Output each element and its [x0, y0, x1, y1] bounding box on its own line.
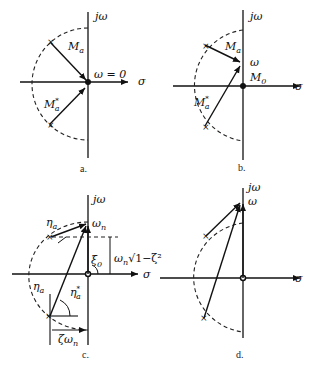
panel-d: × × jω σ ω d.: [160, 181, 303, 360]
panel-b: × × jω σ Ma M*a ω M0 b.: [173, 10, 303, 173]
jw-label: jω: [92, 10, 107, 23]
sigma-label: σ: [295, 272, 303, 285]
panel-a: × × jω σ Ma M*a ω = 0 a.: [20, 10, 146, 174]
Ma-conj-label: M*a: [193, 95, 210, 111]
xi-0-label: ξ0: [91, 254, 102, 269]
vector-Ma-conj: [205, 66, 240, 126]
root-locus-figure: × × jω σ Ma M*a ω = 0 a. × × jω σ Ma M*a…: [0, 0, 314, 370]
omega-n-label: ωn: [92, 217, 106, 232]
panel-c: × × jω σ ηa ηa η*a ωn ξ0 ωn√1−ζ² ζωn c.: [12, 193, 162, 360]
vector-lower-pole: [204, 205, 240, 318]
Ma-label: Ma: [67, 40, 84, 55]
pole-marker-upper: ×: [202, 231, 210, 241]
omega-label: ω: [250, 56, 259, 69]
M0-label: M0: [249, 71, 266, 86]
caption-c: c.: [82, 349, 89, 360]
unit-circle-arc: [32, 28, 88, 140]
jw-label: jω: [247, 10, 262, 23]
eta-a-star-label: η*a: [70, 285, 81, 301]
sigma-label: σ: [143, 268, 151, 281]
eta-a-lower-label: ηa: [33, 280, 45, 295]
pole-marker-lower: ×: [47, 120, 55, 130]
pole-marker-upper: ×: [47, 37, 55, 47]
sigma-label: σ: [138, 75, 146, 88]
Ma-conj-label: M*a: [43, 97, 60, 113]
omega-zero-label: ω = 0: [94, 68, 126, 81]
caption-b: b.: [238, 162, 246, 173]
sigma-label: σ: [295, 80, 303, 93]
Ma-label: Ma: [224, 40, 241, 55]
eta-star-angle-arc: [60, 300, 70, 316]
caption-a: a.: [80, 163, 87, 174]
vector-lower-pole: [50, 226, 86, 316]
pole-marker-upper: ×: [202, 41, 210, 51]
eta-upper-angle-tick: [58, 237, 66, 243]
caption-d: d.: [236, 349, 244, 360]
origin-zero: [240, 83, 246, 89]
eta-a-upper-label: ηa: [46, 216, 58, 231]
height-dimension-label: ωn√1−ζ²: [114, 252, 162, 267]
unit-circle-arc: [29, 222, 88, 330]
jw-label: jω: [245, 181, 260, 194]
pole-marker-lower: ×: [202, 122, 210, 132]
jw-label: jω: [90, 193, 105, 206]
pole-marker-lower: ×: [200, 313, 208, 323]
width-dimension-label: ζωn: [58, 333, 78, 348]
omega-label: ω: [248, 195, 257, 208]
